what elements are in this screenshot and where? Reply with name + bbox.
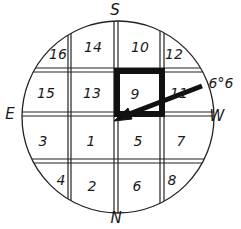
- cell-label: 7: [177, 134, 186, 148]
- direction-top: S: [110, 3, 120, 18]
- cell-label: 14: [84, 40, 102, 54]
- cell-label: 5: [134, 134, 143, 148]
- cell-label: 13: [83, 86, 101, 100]
- cell-label: 11: [170, 86, 188, 100]
- cell-label: 8: [168, 173, 177, 187]
- cell-label: 4: [57, 173, 66, 187]
- direction-left: E: [5, 107, 14, 122]
- cell-label: 6: [133, 179, 142, 193]
- direction-bottom: N: [110, 211, 121, 226]
- cell-label: 1: [87, 134, 96, 148]
- compass-grid-diagram: S N E W 16 14 10 12 15 13 9 11 3 1 5 7 4…: [0, 0, 241, 229]
- cell-label: 3: [39, 134, 48, 148]
- cell-label: 12: [165, 47, 183, 61]
- direction-right: W: [210, 109, 225, 124]
- cell-label: 15: [37, 86, 55, 100]
- cell-label: 2: [88, 179, 97, 193]
- cell-label: 10: [131, 40, 149, 54]
- cell-label: 9: [131, 87, 140, 101]
- diagram-lines: [0, 0, 241, 229]
- arrow-annotation: 6°6: [209, 76, 234, 90]
- cell-label: 16: [49, 47, 67, 61]
